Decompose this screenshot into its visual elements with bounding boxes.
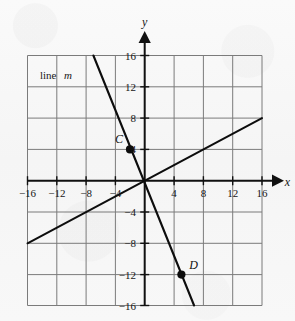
x-tick-label: −16 [19, 187, 37, 199]
y-tick-label: −4 [124, 206, 136, 218]
y-tick-label: −16 [119, 300, 137, 312]
y-tick-label: 12 [125, 81, 136, 93]
line-m-label-roman: line [40, 69, 57, 81]
figure-canvas: −16 −12 −8 −4 4 8 12 16 16 12 8 4 −4 −8 … [0, 0, 295, 321]
line-m-label-italic: m [64, 69, 72, 81]
point-c-label: C [115, 132, 124, 146]
y-axis [139, 31, 151, 306]
point-d-label: D [188, 258, 198, 272]
y-axis-variable-label: y [141, 15, 148, 29]
y-tick-label: 4 [131, 143, 137, 155]
point-d-marker [177, 271, 185, 279]
x-axis-arrowhead [272, 175, 284, 187]
y-tick-label: 16 [125, 50, 137, 62]
y-tick-label: −8 [124, 237, 136, 249]
y-axis-arrowhead [139, 31, 151, 43]
x-tick-label: −8 [80, 187, 92, 199]
x-tick-label: 4 [171, 187, 177, 199]
x-tick-label: 12 [227, 187, 238, 199]
x-tick-label: −12 [48, 187, 65, 199]
y-tick-label: −12 [119, 269, 136, 281]
y-tick-label: 8 [131, 112, 137, 124]
x-axis-tick-labels: −16 −12 −8 −4 4 8 12 16 [19, 187, 268, 199]
x-tick-label: −4 [110, 187, 122, 199]
coordinate-plane-svg: −16 −12 −8 −4 4 8 12 16 16 12 8 4 −4 −8 … [0, 0, 295, 321]
x-tick-label: 16 [257, 187, 269, 199]
x-axis [28, 175, 285, 187]
x-tick-label: 8 [201, 187, 207, 199]
x-axis-variable-label: x [284, 175, 291, 189]
